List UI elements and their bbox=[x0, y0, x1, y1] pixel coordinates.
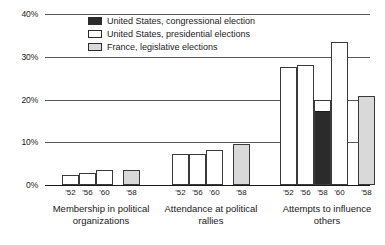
group-label-attempts: Attempts to influence others bbox=[242, 203, 385, 227]
bar-g3-58-congressional bbox=[314, 100, 331, 186]
bar-g2-52 bbox=[172, 154, 189, 185]
legend-swatch-dark-icon bbox=[88, 17, 102, 25]
bar-g1-52 bbox=[62, 175, 79, 185]
bar-chart: 40% 30% 20% 10% 0% '52 '56 '60 '58 Membe… bbox=[0, 0, 385, 245]
bar-g3-56 bbox=[297, 65, 314, 185]
x-tick-g2-58: '58 bbox=[236, 188, 246, 197]
y-tick-label: 40% bbox=[0, 9, 38, 19]
bar-g1-56 bbox=[79, 173, 96, 185]
x-tick-g1-60: '60 bbox=[99, 188, 109, 197]
bar-g3-52 bbox=[280, 67, 297, 185]
bar-segment-congressional bbox=[315, 111, 330, 184]
legend-swatch-white-icon bbox=[88, 30, 102, 38]
x-tick-g2-52: '52 bbox=[175, 188, 185, 197]
chart-legend: United States, congressional election Un… bbox=[88, 15, 255, 54]
legend-label-us-congressional: United States, congressional election bbox=[107, 16, 255, 26]
x-tick-g3-56: '56 bbox=[300, 188, 310, 197]
gridline-30 bbox=[45, 57, 370, 58]
bar-g2-56 bbox=[189, 154, 206, 185]
x-tick-g2-60: '60 bbox=[209, 188, 219, 197]
y-tick-label: 20% bbox=[0, 95, 38, 105]
group-label-line: others bbox=[242, 215, 385, 227]
x-tick-g3-58-france: '58 bbox=[361, 188, 371, 197]
bar-g1-60 bbox=[96, 170, 113, 185]
x-tick-g3-58-congressional: '58 bbox=[317, 188, 327, 197]
x-tick-g1-56: '56 bbox=[82, 188, 92, 197]
bar-g3-60 bbox=[331, 42, 348, 185]
y-tick-label: 0% bbox=[0, 180, 38, 190]
y-tick-label: 10% bbox=[0, 137, 38, 147]
bar-g2-58-france bbox=[233, 144, 250, 185]
y-tick-label: 30% bbox=[0, 52, 38, 62]
bar-g2-60 bbox=[206, 150, 223, 185]
x-tick-g2-56: '56 bbox=[192, 188, 202, 197]
x-tick-g1-52: '52 bbox=[65, 188, 75, 197]
legend-swatch-gray-icon bbox=[88, 43, 102, 51]
x-axis-baseline bbox=[45, 185, 370, 186]
group-label-line: Attempts to influence bbox=[242, 203, 385, 215]
bar-g1-58-france bbox=[123, 170, 140, 185]
bar-g3-58-france bbox=[358, 96, 375, 185]
legend-item-france-legislative: France, legislative elections bbox=[88, 41, 255, 53]
x-tick-g3-60: '60 bbox=[334, 188, 344, 197]
x-tick-g1-58: '58 bbox=[126, 188, 136, 197]
legend-item-us-presidential: United States, presidential elections bbox=[88, 28, 255, 40]
legend-item-us-congressional: United States, congressional election bbox=[88, 15, 255, 27]
x-tick-g3-52: '52 bbox=[283, 188, 293, 197]
legend-label-us-presidential: United States, presidential elections bbox=[107, 29, 250, 39]
legend-label-france-legislative: France, legislative elections bbox=[107, 42, 218, 52]
